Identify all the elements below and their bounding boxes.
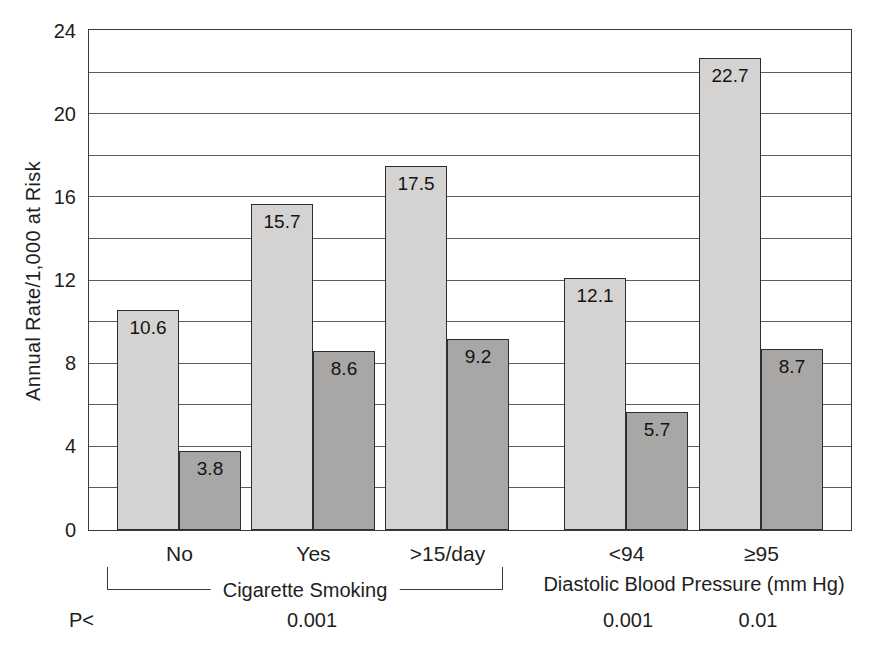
bar-value-label: 17.5 xyxy=(386,173,446,195)
x-category-label-4: ≥95 xyxy=(692,542,832,566)
bar-value-label: 5.7 xyxy=(627,419,687,441)
bar-value-label: 15.7 xyxy=(252,211,312,233)
bar-value-label: 22.7 xyxy=(700,65,760,87)
bar-value-label: 12.1 xyxy=(565,285,625,307)
y-tick-label-24: 24 xyxy=(26,20,76,42)
p-value-smoking: 0.001 xyxy=(252,609,372,632)
bar-dark-4: 8.7 xyxy=(761,349,823,530)
y-tick-label-8: 8 xyxy=(26,352,76,374)
x-category-label-3: <94 xyxy=(557,542,697,566)
y-tick-label-20: 20 xyxy=(26,103,76,125)
y-tick-label-16: 16 xyxy=(26,186,76,208)
bar-dark-0: 3.8 xyxy=(179,451,241,530)
x-category-label-1: Yes xyxy=(244,542,384,566)
y-tick-label-0: 0 xyxy=(26,519,76,541)
plot-area: 10.615.717.512.122.73.88.69.25.78.7 xyxy=(88,29,852,531)
bar-light-2: 17.5 xyxy=(385,166,447,530)
bar-value-label: 9.2 xyxy=(448,346,508,368)
y-tick-label-4: 4 xyxy=(26,435,76,457)
y-tick-label-12: 12 xyxy=(26,269,76,291)
bar-dark-3: 5.7 xyxy=(626,412,688,531)
bar-value-label: 10.6 xyxy=(118,317,178,339)
p-value-bp-under-94: 0.001 xyxy=(568,609,688,632)
section-label-diastolic-blood-pressure: Diastolic Blood Pressure (mm Hg) xyxy=(494,573,872,596)
p-row-label: P< xyxy=(69,609,94,632)
x-category-label-2: >15/day xyxy=(378,542,518,566)
bar-dark-2: 9.2 xyxy=(447,339,509,530)
bar-light-3: 12.1 xyxy=(564,278,626,530)
grouped-bar-chart-figure: Annual Rate/1,000 at Risk 10.615.717.512… xyxy=(0,0,872,655)
bar-dark-1: 8.6 xyxy=(313,351,375,530)
section-label-cigarette-smoking: Cigarette Smoking xyxy=(211,579,400,602)
x-category-label-0: No xyxy=(110,542,250,566)
cigarette-smoking-bracket: Cigarette Smoking xyxy=(107,567,503,590)
bar-value-label: 3.8 xyxy=(180,458,240,480)
bar-light-0: 10.6 xyxy=(117,310,179,530)
bar-value-label: 8.6 xyxy=(314,358,374,380)
bar-light-1: 15.7 xyxy=(251,204,313,530)
p-value-bp-95-and-over: 0.01 xyxy=(698,609,818,632)
bar-value-label: 8.7 xyxy=(762,356,822,378)
bar-light-4: 22.7 xyxy=(699,58,761,530)
